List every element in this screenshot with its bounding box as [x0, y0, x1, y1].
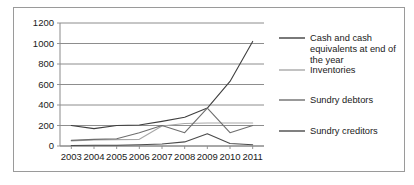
chart-plot-area: 0200400600800100012002003200420052006200…	[14, 8, 272, 171]
legend-label-0: Cash and cash	[310, 33, 372, 43]
y-tick-label: 1200	[33, 17, 54, 28]
legend-label-0: the year	[310, 55, 344, 65]
x-tick-label: 2006	[129, 151, 150, 162]
series-line	[71, 41, 252, 128]
x-tick-label: 2011	[242, 151, 262, 162]
line-chart-svg: 0200400600800100012002003200420052006200…	[14, 8, 272, 171]
legend-label-3: Sundry creditors	[310, 126, 378, 136]
y-tick-label: 400	[38, 99, 54, 110]
x-tick-label: 2008	[174, 151, 195, 162]
y-tick-label: 800	[38, 58, 54, 69]
x-tick-label: 2007	[151, 151, 172, 162]
y-tick-label: 200	[38, 120, 54, 131]
x-tick-label: 2003	[61, 151, 82, 162]
x-tick-label: 2009	[197, 151, 218, 162]
x-tick-label: 2010	[219, 151, 240, 162]
y-tick-label: 1000	[33, 38, 54, 49]
legend-label-2: Sundry debtors	[310, 95, 373, 105]
x-tick-label: 2005	[106, 151, 127, 162]
legend-label-1: Inventories	[310, 65, 356, 75]
chart-figure: 0200400600800100012002003200420052006200…	[13, 7, 405, 172]
y-tick-label: 600	[38, 79, 54, 90]
series-line	[71, 108, 252, 140]
legend-svg: Cash and cashequivalents at end ofthe ye…	[272, 8, 405, 171]
y-tick-label: 0	[49, 140, 54, 151]
legend-label-0: equivalents at end of	[310, 44, 396, 54]
chart-legend: Cash and cashequivalents at end ofthe ye…	[272, 8, 405, 171]
x-tick-label: 2004	[83, 151, 104, 162]
